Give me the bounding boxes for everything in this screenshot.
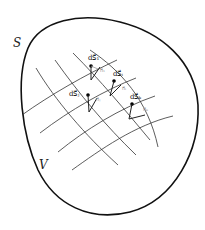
normal-label-3: n⃗ⱼ [96,96,101,102]
volume-label: V [39,158,49,172]
normal-label-2: n⃗ᵢ [122,85,126,91]
volume-diagram: dS⃗₁ dS⃗ᵢ dS⃗ⱼ dS⃗ₖ n⃗₁ n⃗ᵢ n⃗ⱼ n⃗ₖ S V [0,0,205,230]
normal-label-1: n⃗₁ [100,67,105,73]
surface-element-2 [110,79,121,96]
grid-curves [22,50,173,170]
area-label-2: dS⃗ᵢ [113,69,123,78]
normal-label-4: n⃗ₖ [143,106,148,112]
area-label-1: dS⃗₁ [88,53,99,62]
surface-label: S [13,36,21,50]
area-label-3: dS⃗ⱼ [69,89,79,98]
area-label-4: dS⃗ₖ [130,92,141,101]
surface-element-1 [89,64,100,80]
